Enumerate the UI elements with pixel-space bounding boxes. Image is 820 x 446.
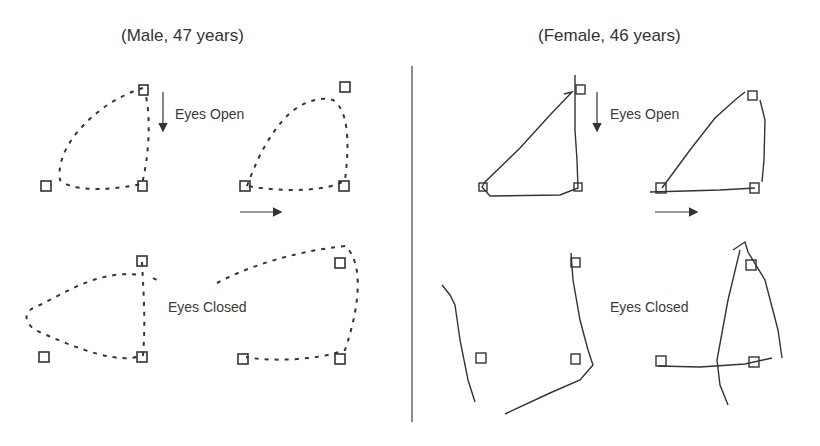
female-eyes-open-trace-2 [650,92,765,192]
female-eyes-closed-trace-2 [505,253,593,414]
male-eyes-open-trace-2 [247,99,347,190]
female-eyes-open-targets-1 [479,85,585,191]
female-eyes-closed-targets-2 [656,260,759,367]
female-eyes-closed-targets-1 [476,258,580,364]
female-eyes-closed-trace-3 [658,242,782,405]
female-eyes-closed-trace-1 [442,285,475,402]
female-eyes-open-targets-2 [656,91,759,193]
male-eyes-closed-trace-1 [26,262,160,358]
trace-diagram [0,0,820,446]
male-eyes-closed-targets-2 [238,258,345,364]
male-eyes-open-targets-2 [240,82,350,191]
female-eyes-open-trace-1 [482,75,578,196]
male-eyes-closed-trace-2 [217,246,358,360]
male-eyes-open-trace-1 [60,88,149,189]
male-eyes-closed-targets-1 [39,256,147,362]
male-eyes-open-targets-1 [41,85,148,191]
